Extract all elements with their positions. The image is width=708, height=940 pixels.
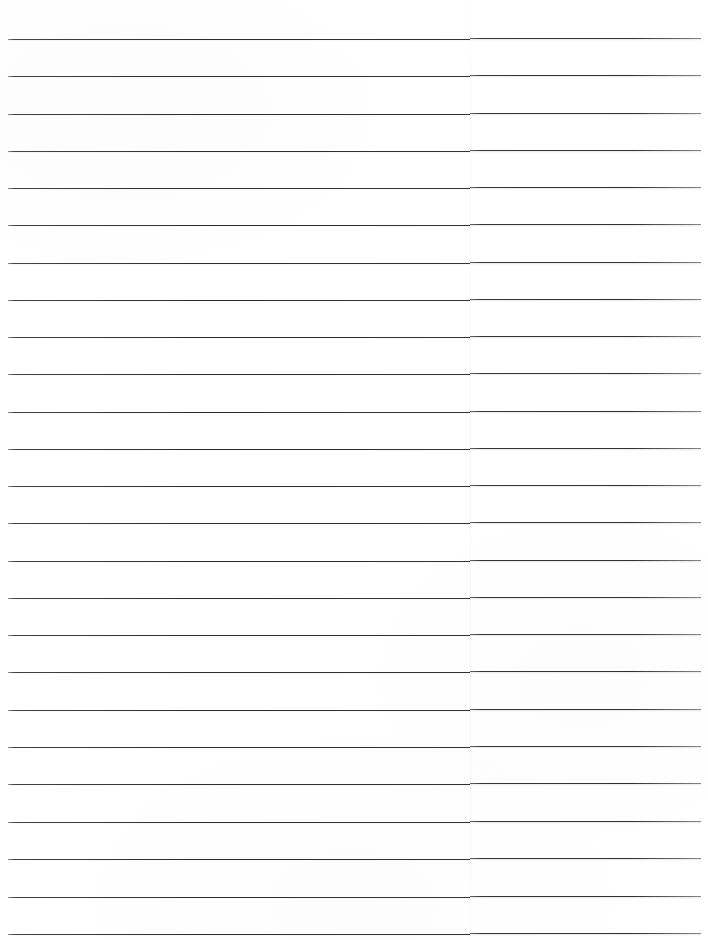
ruled-line — [8, 299, 701, 302]
ruled-line-segment-right — [470, 187, 701, 188]
ruled-line-segment-right — [470, 75, 701, 76]
ruled-line — [8, 336, 701, 339]
ruled-line-segment-right — [470, 224, 701, 225]
ruled-line — [8, 858, 701, 861]
ruled-line — [8, 113, 701, 116]
ruled-line-segment-right — [470, 411, 701, 412]
ruled-line-segment-left — [8, 710, 470, 711]
ruled-line — [8, 224, 701, 227]
ruled-line — [8, 821, 701, 824]
ruled-line-segment-right — [470, 485, 701, 486]
ruled-line — [8, 262, 701, 265]
ruled-line — [8, 448, 701, 451]
ruled-line-segment-left — [8, 934, 470, 935]
ruled-line-segment-left — [8, 412, 470, 413]
ruled-line-segment-right — [470, 262, 701, 263]
ruled-line — [8, 187, 701, 190]
ruled-line-segment-left — [8, 486, 470, 487]
ruled-line-segment-left — [8, 598, 470, 599]
ruled-line-segment-right — [470, 113, 701, 114]
ruled-line-segment-right — [470, 933, 701, 934]
ruled-line-segment-right — [470, 821, 701, 822]
ruled-line — [8, 560, 701, 563]
ruled-line-segment-left — [8, 114, 470, 115]
ruled-line — [8, 38, 701, 41]
ruled-line — [8, 150, 701, 153]
ruled-line-segment-left — [8, 39, 470, 40]
ruled-line-segment-left — [8, 822, 470, 823]
ruled-line — [8, 746, 701, 749]
ruled-line-segment-left — [8, 300, 470, 301]
paper-texture — [0, 0, 708, 940]
ruled-line-segment-left — [8, 263, 470, 264]
ruled-line-segment-left — [8, 76, 470, 77]
ruled-line-segment-right — [470, 336, 701, 337]
ruled-line-segment-right — [470, 671, 701, 672]
ruled-line — [8, 373, 701, 376]
ruled-line-segment-right — [470, 448, 701, 449]
ruled-line-segment-right — [470, 522, 701, 523]
ruled-line-segment-left — [8, 897, 470, 898]
ruled-line-segment-left — [8, 374, 470, 375]
ruled-line — [8, 597, 701, 600]
ruled-line-segment-left — [8, 747, 470, 748]
ruled-line-segment-right — [470, 560, 701, 561]
ruled-line-segment-right — [470, 150, 701, 151]
ruled-line-segment-right — [470, 746, 701, 747]
ruled-line-segment-right — [470, 709, 701, 710]
ruled-line-segment-left — [8, 523, 470, 524]
ruled-line-segment-right — [470, 373, 701, 374]
ruled-line-segment-right — [470, 597, 701, 598]
ruled-line-segment-left — [8, 188, 470, 189]
ruled-line-segment-left — [8, 337, 470, 338]
ruled-line — [8, 933, 701, 936]
ruled-line-segment-left — [8, 225, 470, 226]
ruled-line-segment-left — [8, 784, 470, 785]
ruled-line-segment-right — [470, 634, 701, 635]
ruled-line — [8, 896, 701, 899]
ruled-line-segment-right — [470, 783, 701, 784]
ruled-line-segment-left — [8, 635, 470, 636]
ruled-line — [8, 709, 701, 712]
ruled-line-segment-left — [8, 859, 470, 860]
ruled-line-segment-right — [470, 896, 701, 897]
ruled-line-segment-left — [8, 449, 470, 450]
ruled-line-segment-left — [8, 151, 470, 152]
ruled-line-segment-left — [8, 672, 470, 673]
ruled-line-segment-left — [8, 561, 470, 562]
ruled-line-segment-right — [470, 38, 701, 39]
ruled-line — [8, 783, 701, 786]
ruled-line-segment-right — [470, 299, 701, 300]
ruled-line — [8, 411, 701, 414]
scan-seam-artifact — [470, 0, 471, 940]
ruled-line — [8, 671, 701, 674]
ruled-line-segment-right — [470, 858, 701, 859]
ruled-line — [8, 634, 701, 637]
ruled-line — [8, 75, 701, 78]
scanned-page — [0, 0, 708, 940]
ruled-line — [8, 522, 701, 525]
ruled-line — [8, 485, 701, 488]
